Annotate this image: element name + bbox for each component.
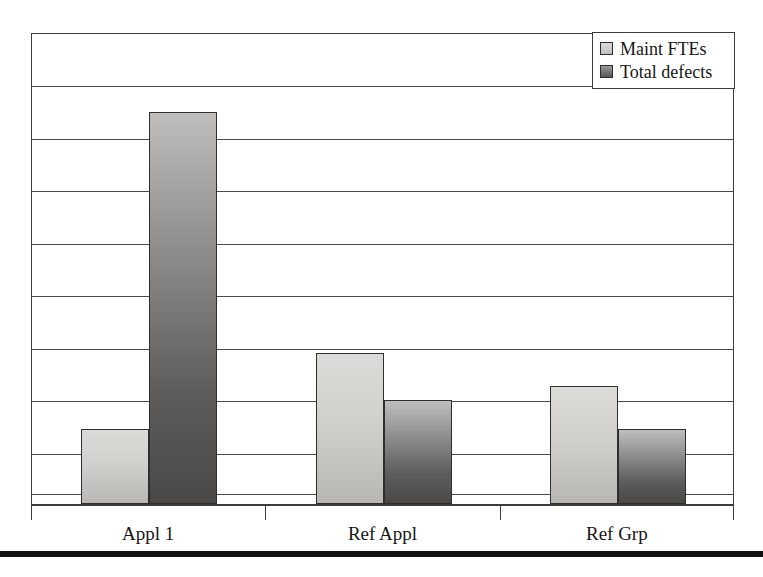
bar-ref-grp-total-defects [618, 429, 686, 505]
chart-figure: Appl 1 Ref Appl Ref Grp Maint FTEs Total… [0, 0, 763, 577]
category-label-2: Ref Grp [500, 523, 734, 545]
legend-label-total-defects: Total defects [620, 63, 712, 81]
bar-appl-1-total-defects [149, 112, 217, 504]
legend-swatch-icon-maint-ftes [600, 42, 613, 55]
category-label-0: Appl 1 [31, 523, 265, 545]
category-tick [733, 505, 734, 520]
chart-legend: Maint FTEs Total defects [592, 32, 735, 89]
category-tick [265, 505, 266, 520]
legend-entry-maint-ftes: Maint FTEs [600, 37, 728, 60]
legend-swatch-icon-total-defects [600, 65, 613, 78]
legend-label-maint-ftes: Maint FTEs [620, 40, 707, 58]
category-tick [500, 505, 501, 520]
bar-ref-appl-maint-ftes [316, 353, 384, 504]
category-tick [31, 505, 32, 520]
axis-line [31, 505, 734, 506]
plot-area [31, 33, 734, 505]
bar-ref-appl-total-defects [384, 400, 452, 504]
bottom-rule [0, 551, 763, 557]
bar-ref-grp-maint-ftes [550, 386, 618, 504]
category-label-1: Ref Appl [265, 523, 499, 545]
bar-groups [32, 34, 733, 504]
legend-entry-total-defects: Total defects [600, 60, 728, 83]
bar-appl-1-maint-ftes [81, 429, 149, 505]
category-axis: Appl 1 Ref Appl Ref Grp [31, 505, 734, 521]
